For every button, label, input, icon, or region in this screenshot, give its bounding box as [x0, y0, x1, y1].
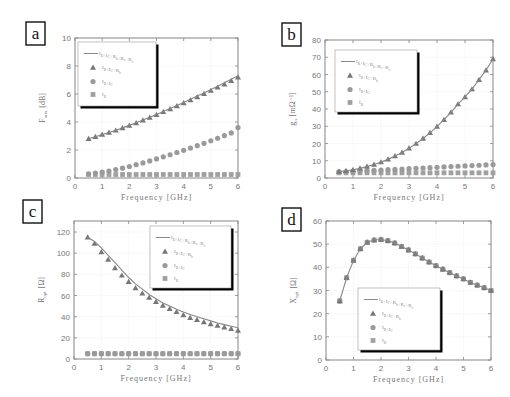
panel-a-xlabel: Frequency [GHz] [121, 193, 192, 202]
svg-text:4: 4 [67, 118, 72, 127]
svg-text:100: 100 [57, 249, 71, 258]
svg-text:1: 1 [100, 182, 105, 191]
svg-text:10: 10 [312, 157, 321, 166]
svg-text:Xopt[Ω]: Xopt[Ω] [289, 277, 299, 304]
svg-text:4: 4 [181, 182, 186, 191]
figure-canvas: a01234560246810Frequency [GHz]Fmin[dB]IB… [0, 0, 510, 397]
svg-text:2: 2 [379, 182, 384, 191]
panel-d-legend: IB+IC+Rb+Re+RcIB+IC+RbIB+ICIB [358, 288, 443, 353]
svg-text:120: 120 [57, 228, 71, 237]
svg-text:6: 6 [67, 90, 72, 99]
svg-text:4: 4 [181, 363, 186, 372]
svg-text:2: 2 [67, 146, 72, 155]
svg-text:0: 0 [67, 174, 72, 183]
panel-c-xlabel: Frequency [GHz] [120, 374, 191, 383]
svg-text:5: 5 [208, 363, 213, 372]
svg-text:20: 20 [312, 140, 321, 149]
panel-d-label-box: d [282, 208, 301, 231]
svg-text:0: 0 [323, 182, 328, 191]
svg-text:40: 40 [312, 105, 321, 114]
svg-text:30: 30 [312, 122, 321, 131]
svg-text:0: 0 [317, 174, 322, 183]
svg-text:3: 3 [154, 182, 159, 191]
svg-text:a: a [32, 24, 40, 43]
panel-b: b012345601020304050607080Frequency [GHz]… [282, 23, 496, 202]
svg-text:b: b [287, 25, 296, 44]
panel-d-xlabel: Frequency [GHz] [373, 375, 444, 384]
svg-text:2: 2 [379, 364, 384, 373]
svg-text:0: 0 [318, 356, 323, 365]
svg-text:6: 6 [236, 363, 241, 372]
svg-text:5: 5 [461, 364, 466, 373]
svg-text:1: 1 [351, 182, 356, 191]
svg-text:10: 10 [313, 333, 322, 342]
svg-text:Ropt[Ω]: Ropt[Ω] [37, 277, 47, 303]
panel-a: a01234560246810Frequency [GHz]Fmin[dB]IB… [26, 22, 241, 202]
svg-text:4: 4 [435, 182, 440, 191]
svg-text:50: 50 [312, 88, 321, 97]
svg-text:3: 3 [154, 363, 159, 372]
svg-text:60: 60 [61, 292, 70, 301]
svg-text:0: 0 [73, 182, 78, 191]
svg-text:6: 6 [491, 182, 496, 191]
svg-text:3: 3 [407, 182, 412, 191]
svg-text:6: 6 [489, 364, 494, 373]
svg-text:50: 50 [313, 240, 322, 249]
svg-text:0: 0 [324, 364, 329, 373]
svg-text:6: 6 [236, 182, 241, 191]
svg-text:1: 1 [351, 364, 356, 373]
svg-text:gn[mΩ⁻¹]: gn[mΩ⁻¹] [288, 92, 298, 126]
svg-text:2: 2 [127, 182, 132, 191]
svg-text:70: 70 [312, 53, 321, 62]
svg-text:2: 2 [126, 363, 131, 372]
svg-text:20: 20 [61, 334, 70, 343]
svg-text:60: 60 [312, 71, 321, 80]
svg-text:4: 4 [434, 364, 439, 373]
svg-text:40: 40 [61, 313, 70, 322]
svg-text:0: 0 [72, 363, 77, 372]
svg-text:3: 3 [406, 364, 411, 373]
svg-text:8: 8 [67, 62, 72, 71]
svg-text:80: 80 [61, 270, 70, 279]
panel-c-label-box: c [23, 200, 42, 223]
panel-c: c0123456020406080100120Frequency [GHz]Ro… [23, 200, 241, 383]
svg-text:60: 60 [313, 217, 322, 226]
svg-text:1: 1 [99, 363, 104, 372]
svg-text:10: 10 [62, 34, 71, 43]
panel-d: d01234560102030405060Frequency [GHz]Xopt… [282, 208, 494, 384]
panel-c-legend: IB+IC+Rb+Re+RcIB+IC+RbIB+ICIB [150, 226, 234, 291]
svg-text:5: 5 [463, 182, 468, 191]
svg-text:Fmin[dB]: Fmin[dB] [38, 93, 48, 123]
panel-b-label-box: b [282, 23, 301, 46]
panel-b-legend: IB+IC+Rb+Re+RcIB+IC+RbIB+ICIB [335, 50, 420, 115]
svg-text:d: d [287, 210, 296, 229]
svg-text:c: c [29, 202, 37, 221]
svg-text:20: 20 [313, 310, 322, 319]
svg-text:40: 40 [313, 263, 322, 272]
svg-text:30: 30 [313, 287, 322, 296]
svg-text:5: 5 [209, 182, 214, 191]
panel-b-xlabel: Frequency [GHz] [373, 193, 444, 202]
svg-text:80: 80 [312, 36, 321, 45]
panel-a-label-box: a [26, 22, 45, 45]
svg-text:0: 0 [66, 355, 71, 364]
panel-a-legend: IB+IC+Rb+Re+RcIB+IC+RbIB+ICIB [78, 42, 159, 109]
